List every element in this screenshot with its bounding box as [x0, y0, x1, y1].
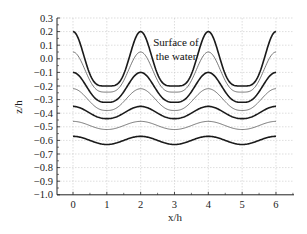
- y-axis-ticks: 0.30.20.10.0−0.1−0.2−0.3−0.4−0.5−0.6−0.7…: [34, 13, 60, 201]
- y-tick-label: 0.2: [40, 26, 53, 37]
- y-tick-label: −0.7: [34, 149, 53, 160]
- y-tick-label: 0.3: [40, 13, 53, 24]
- annotation-surface-line2: the water: [156, 50, 197, 62]
- y-tick-label: −0.3: [34, 94, 53, 105]
- x-tick-label: 3: [172, 199, 177, 210]
- y-tick-label: −0.8: [34, 162, 53, 173]
- y-axis-title: z/h: [12, 100, 24, 114]
- chart: 0.30.20.10.0−0.1−0.2−0.3−0.4−0.5−0.6−0.7…: [0, 0, 307, 234]
- x-tick-label: 6: [273, 199, 278, 210]
- y-tick-label: −0.1: [34, 67, 53, 78]
- y-tick-label: −0.9: [34, 176, 53, 187]
- x-tick-label: 0: [70, 199, 75, 210]
- y-tick-label: −0.6: [34, 135, 53, 146]
- x-tick-label: 5: [240, 199, 245, 210]
- y-tick-label: −1.0: [34, 189, 53, 200]
- y-tick-label: −0.5: [34, 121, 53, 132]
- x-axis-title: x/h: [168, 211, 183, 223]
- y-tick-label: 0.1: [40, 40, 53, 51]
- y-tick-label: −0.4: [34, 108, 54, 119]
- x-tick-label: 2: [138, 199, 143, 210]
- x-tick-label: 4: [206, 199, 212, 210]
- y-tick-label: 0.0: [40, 53, 53, 64]
- series-level-6: [73, 121, 276, 129]
- y-tick-label: −0.2: [34, 81, 53, 92]
- annotation-surface-line1: Surface of: [153, 36, 199, 48]
- x-tick-label: 1: [104, 199, 109, 210]
